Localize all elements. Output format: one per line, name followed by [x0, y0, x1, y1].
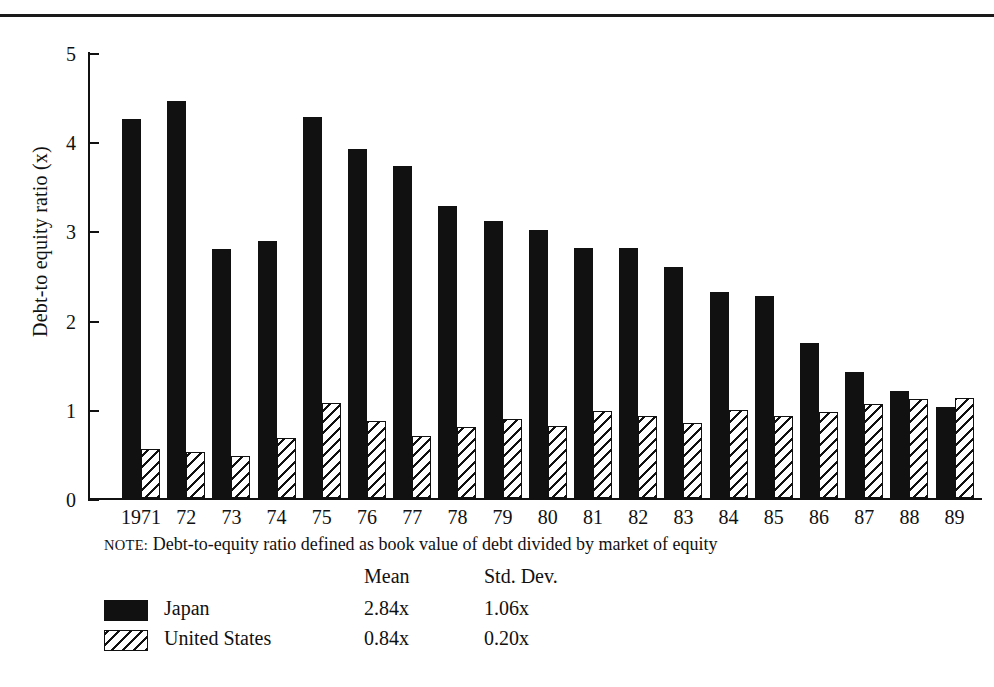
- legend-swatch-solid-icon: [104, 600, 148, 621]
- bar-united-states-78: [457, 427, 476, 498]
- bar-united-states-86: [819, 412, 838, 498]
- x-tick-label: 78: [447, 506, 467, 529]
- legend-series-name: United States: [164, 624, 364, 654]
- legend-swatch-cell: [104, 594, 164, 624]
- x-tick-label: 84: [719, 506, 739, 529]
- bar-group: [212, 52, 250, 498]
- bar-group: [393, 52, 431, 498]
- bar-group-container: [90, 52, 982, 498]
- bar-united-states-83: [683, 423, 702, 498]
- legend-row: Japan2.84x1.06x: [104, 594, 624, 624]
- bar-group: [845, 52, 883, 498]
- legend-swatch-cell: [104, 624, 164, 654]
- bar-japan-87: [845, 372, 864, 498]
- x-tick-label: 80: [538, 506, 558, 529]
- bar-group: [167, 52, 205, 498]
- bar-japan-82: [619, 248, 638, 498]
- bar-group: [484, 52, 522, 498]
- bar-united-states-75: [322, 403, 341, 498]
- bar-group: [710, 52, 748, 498]
- bar-group: [258, 52, 296, 498]
- bar-united-states-80: [548, 426, 567, 498]
- bar-group: [122, 52, 160, 498]
- legend-header-row: MeanStd. Dev.: [104, 562, 624, 594]
- bar-united-states-85: [774, 416, 793, 498]
- x-tick-label: 87: [854, 506, 874, 529]
- bar-united-states-87: [864, 404, 883, 498]
- bar-united-states-76: [367, 421, 386, 498]
- y-tick-label: 4: [66, 132, 76, 155]
- bar-united-states-89: [955, 398, 974, 498]
- legend-mean-value: 2.84x: [364, 594, 484, 624]
- bar-japan-86: [800, 343, 819, 498]
- bar-japan-85: [755, 296, 774, 498]
- y-tick-label: 5: [66, 43, 76, 66]
- bar-japan-84: [710, 292, 729, 498]
- bar-japan-89: [936, 407, 955, 498]
- bar-japan-83: [664, 267, 683, 498]
- x-tick-label: 75: [312, 506, 332, 529]
- bar-group: [664, 52, 702, 498]
- page-top-artifact: [0, 0, 994, 12]
- x-tick-label: 88: [899, 506, 919, 529]
- x-tick-label: 72: [176, 506, 196, 529]
- bar-japan-72: [167, 101, 186, 498]
- y-tick-mark: [88, 499, 99, 501]
- legend-row: United States0.84x0.20x: [104, 624, 624, 654]
- bar-group: [936, 52, 974, 498]
- x-tick-label: 82: [628, 506, 648, 529]
- bar-united-states-84: [729, 410, 748, 498]
- bar-united-states-74: [277, 438, 296, 498]
- legend-mean-value: 0.84x: [364, 624, 484, 654]
- y-tick-label: 0: [66, 489, 76, 512]
- bar-united-states-72: [186, 452, 205, 498]
- legend-table: MeanStd. Dev.Japan2.84x1.06xUnited State…: [104, 562, 624, 654]
- legend-std-dev-value: 1.06x: [484, 594, 624, 624]
- x-tick-label: 83: [673, 506, 693, 529]
- bar-japan-75: [303, 117, 322, 498]
- bar-united-states-82: [638, 416, 657, 498]
- bar-united-states-81: [593, 411, 612, 498]
- bar-group: [755, 52, 793, 498]
- bar-group: [529, 52, 567, 498]
- bar-united-states-88: [909, 399, 928, 498]
- x-axis-line: [88, 498, 982, 500]
- legend-swatch-hatch-icon: [104, 630, 148, 651]
- x-tick-label: 74: [267, 506, 287, 529]
- bar-group: [348, 52, 386, 498]
- x-tick-label: 79: [493, 506, 513, 529]
- bar-japan-78: [438, 206, 457, 498]
- x-tick-label: 85: [764, 506, 784, 529]
- legend-header-name-cell: [164, 562, 364, 594]
- legend-header-swatch-cell: [104, 562, 164, 594]
- bar-japan-79: [484, 221, 503, 498]
- figure-page: Debt-to equity ratio (x) 012345 19717273…: [0, 0, 994, 687]
- y-tick-label: 2: [66, 310, 76, 333]
- bar-united-states-79: [503, 419, 522, 498]
- bar-japan-88: [890, 391, 909, 498]
- y-axis-label: Debt-to equity ratio (x): [29, 32, 52, 452]
- legend-header-mean: Mean: [364, 562, 484, 594]
- bar-group: [303, 52, 341, 498]
- x-tick-label: 76: [357, 506, 377, 529]
- bar-group: [619, 52, 657, 498]
- note-text: Debt-to-equity ratio defined as book val…: [153, 534, 718, 554]
- bar-japan-1971: [122, 119, 141, 498]
- bar-united-states-1971: [141, 449, 160, 498]
- note-prefix: NOTE:: [104, 537, 148, 553]
- bar-japan-80: [529, 230, 548, 498]
- x-tick-label: 77: [402, 506, 422, 529]
- x-tick-label: 89: [945, 506, 965, 529]
- bar-group: [890, 52, 928, 498]
- x-tick-label: 1971: [121, 506, 161, 529]
- y-tick-label: 3: [66, 221, 76, 244]
- bar-group: [800, 52, 838, 498]
- chart-legend: MeanStd. Dev.Japan2.84x1.06xUnited State…: [104, 562, 624, 654]
- header-rule: [0, 14, 994, 17]
- bar-group: [574, 52, 612, 498]
- chart-plot-area: Debt-to equity ratio (x) 012345 19717273…: [0, 30, 994, 510]
- x-tick-label: 86: [809, 506, 829, 529]
- x-tick-label: 81: [583, 506, 603, 529]
- bar-japan-74: [258, 241, 277, 498]
- y-tick-label: 1: [66, 399, 76, 422]
